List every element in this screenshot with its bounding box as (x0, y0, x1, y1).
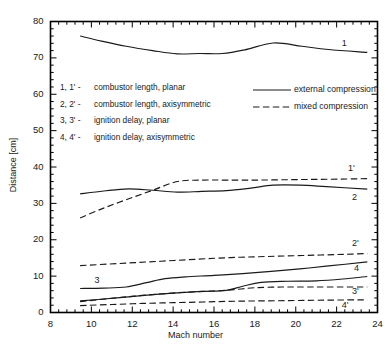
y-tick-label: 80 (18, 15, 44, 26)
legend-sample-lines (253, 90, 291, 107)
y-tick-label: 40 (18, 161, 44, 172)
series-key-id: 1, 1' - (60, 82, 94, 92)
curve-tag: 2' (352, 238, 359, 248)
x-tick-label: 12 (119, 318, 145, 329)
axis-ticks (51, 22, 378, 313)
chart-figure: Mach number Distance [cm] 01020304050607… (0, 0, 391, 352)
series-key-id: 4, 4' - (60, 132, 94, 142)
curve-3 (80, 262, 367, 289)
curve-4-prime (80, 300, 367, 306)
curve-tag: 2 (352, 192, 357, 202)
x-tick-label: 8 (38, 318, 64, 329)
curve-2-prime (80, 254, 367, 266)
series-key-row: 3, 3' -ignition delay, planar (60, 115, 170, 125)
curve-tag: 1 (342, 38, 347, 48)
y-axis-title: Distance [cm] (8, 105, 18, 225)
curve-3-prime (80, 287, 367, 302)
series-key-id: 2, 2' - (60, 99, 94, 109)
curve-1 (80, 36, 367, 54)
legend-label: mixed compression (294, 101, 368, 111)
x-tick-label: 20 (283, 318, 309, 329)
y-tick-label: 20 (18, 233, 44, 244)
y-tick-label: 50 (18, 124, 44, 135)
y-tick-label: 0 (18, 306, 44, 317)
x-tick-label: 22 (324, 318, 350, 329)
series-key-row: 2, 2' -combustor length, axisymmetric (60, 99, 211, 109)
x-tick-label: 24 (365, 318, 391, 329)
curve-1-prime (80, 179, 367, 218)
series-key-text: ignition delay, axisymmetric (94, 132, 195, 142)
plot-canvas (0, 0, 391, 352)
series-key-id: 3, 3' - (60, 115, 94, 125)
series-key-row: 1, 1' -combustor length, planar (60, 82, 185, 92)
y-tick-label: 30 (18, 197, 44, 208)
curve-tag: 3 (95, 275, 100, 285)
x-tick-label: 14 (160, 318, 186, 329)
curve-tag: 3' (352, 286, 359, 296)
curve-tag: 4' (342, 300, 349, 310)
curve-tag: 1' (348, 163, 355, 173)
curve-tag: 4 (354, 263, 359, 273)
legend-label: external compression (294, 84, 376, 94)
curve-2 (80, 185, 367, 194)
y-tick-label: 70 (18, 51, 44, 62)
y-tick-label: 60 (18, 88, 44, 99)
series-key-text: combustor length, planar (94, 82, 185, 92)
series-key-row: 4, 4' -ignition delay, axisymmetric (60, 132, 195, 142)
axes-frame (51, 22, 378, 313)
series-key-text: combustor length, axisymmetric (94, 99, 211, 109)
y-tick-label: 10 (18, 270, 44, 281)
x-axis-title: Mach number (0, 330, 391, 340)
data-curves (80, 36, 367, 306)
x-tick-label: 10 (78, 318, 104, 329)
series-key-text: ignition delay, planar (94, 115, 170, 125)
x-tick-label: 18 (242, 318, 268, 329)
x-tick-label: 16 (201, 318, 227, 329)
